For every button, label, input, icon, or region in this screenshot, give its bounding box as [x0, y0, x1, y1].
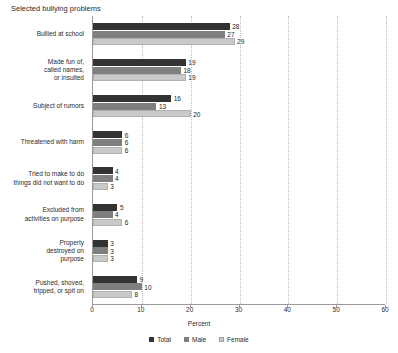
category-label-line: destroyed on — [0, 247, 84, 255]
legend-swatch-female — [219, 337, 224, 342]
bar-male — [93, 139, 122, 146]
bar-value-label: 16 — [174, 95, 181, 102]
legend-item-male: Male — [184, 336, 206, 343]
bar-total — [93, 204, 117, 211]
bar-value-label: 6 — [125, 132, 129, 139]
bar-value-label: 20 — [193, 111, 200, 118]
bar-value-label: 3 — [110, 255, 114, 262]
bar-male — [93, 31, 225, 38]
category-label-line: Bullied at school — [0, 30, 84, 38]
category-label: Subject of rumors — [0, 102, 84, 110]
bar-value-label: 19 — [188, 59, 195, 66]
category-label-line: Tried to make to do — [0, 170, 84, 178]
gridline — [337, 16, 338, 304]
bar-female — [93, 219, 122, 226]
bar-chart: Selected bullying problems 2827291918191… — [0, 0, 398, 353]
category-label-line: Property — [0, 239, 84, 247]
bar-value-label: 28 — [232, 23, 239, 30]
category-label-line: Threatened with harm — [0, 138, 84, 146]
legend-swatch-male — [184, 337, 189, 342]
category-label-line: Made fun of, — [0, 58, 84, 66]
bar-value-label: 18 — [183, 67, 190, 74]
chart-legend: TotalMaleFemale — [0, 336, 398, 343]
bar-total — [93, 167, 113, 174]
category-label-line: tripped, or spit on — [0, 287, 84, 295]
bar-female — [93, 291, 132, 298]
bar-value-label: 29 — [237, 38, 244, 45]
category-label-line: Pushed, shoved, — [0, 279, 84, 287]
bar-value-label: 3 — [110, 240, 114, 247]
gridline — [288, 16, 289, 304]
bar-female — [93, 38, 235, 45]
chart-title: Selected bullying problems — [11, 4, 101, 13]
bar-male — [93, 247, 108, 254]
category-label: Excluded fromactivities on purpose — [0, 206, 84, 222]
legend-label: Female — [227, 336, 249, 343]
bar-value-label: 3 — [110, 248, 114, 255]
legend-label: Male — [192, 336, 206, 343]
bar-total — [93, 95, 171, 102]
category-label-line: Subject of rumors — [0, 102, 84, 110]
bar-female — [93, 74, 186, 81]
bar-male — [93, 283, 142, 290]
category-label: Bullied at school — [0, 30, 84, 38]
bar-total — [93, 276, 137, 283]
category-label-line: called names, — [0, 66, 84, 74]
bar-value-label: 6 — [125, 147, 129, 154]
bar-value-label: 13 — [159, 103, 166, 110]
bar-female — [93, 255, 108, 262]
x-tick-mark — [190, 305, 191, 308]
bar-female — [93, 183, 108, 190]
bar-value-label: 6 — [125, 139, 129, 146]
plot-area: 2827291918191613206664435463339108 — [92, 16, 385, 305]
bar-value-label: 19 — [188, 74, 195, 81]
category-label-line: Excluded from — [0, 206, 84, 214]
legend-label: Total — [157, 336, 171, 343]
bar-value-label: 5 — [120, 204, 124, 211]
bar-value-label: 10 — [144, 284, 151, 291]
category-label-line: or insulted — [0, 74, 84, 82]
bar-total — [93, 59, 186, 66]
bar-total — [93, 131, 122, 138]
bar-male — [93, 211, 113, 218]
bar-value-label: 4 — [115, 168, 119, 175]
category-label-line: activities on purpose — [0, 215, 84, 223]
bar-value-label: 9 — [139, 276, 143, 283]
gridline — [240, 16, 241, 304]
bar-male — [93, 67, 181, 74]
legend-swatch-total — [149, 337, 154, 342]
bar-female — [93, 110, 191, 117]
legend-item-female: Female — [219, 336, 249, 343]
bar-total — [93, 23, 230, 30]
category-label-line: purpose — [0, 255, 84, 263]
x-tick-mark — [385, 305, 386, 308]
category-label: Propertydestroyed onpurpose — [0, 239, 84, 264]
x-tick-mark — [239, 305, 240, 308]
bar-value-label: 8 — [135, 291, 139, 298]
bar-value-label: 27 — [227, 31, 234, 38]
x-axis-label: Percent — [0, 320, 398, 327]
bar-male — [93, 175, 113, 182]
legend-item-total: Total — [149, 336, 171, 343]
bar-value-label: 6 — [125, 219, 129, 226]
x-tick-mark — [141, 305, 142, 308]
bar-value-label: 4 — [115, 211, 119, 218]
category-label: Made fun of,called names,or insulted — [0, 58, 84, 83]
bar-value-label: 3 — [110, 183, 114, 190]
gridline — [386, 16, 387, 304]
category-label: Pushed, shoved,tripped, or spit on — [0, 279, 84, 295]
bar-male — [93, 103, 156, 110]
x-tick-mark — [336, 305, 337, 308]
bar-total — [93, 240, 108, 247]
category-label: Threatened with harm — [0, 138, 84, 146]
category-label: Tried to make to dothings did not want t… — [0, 170, 84, 186]
bar-female — [93, 147, 122, 154]
x-tick-mark — [287, 305, 288, 308]
category-label-line: things did not want to do — [0, 179, 84, 187]
x-tick-mark — [92, 305, 93, 308]
bar-value-label: 4 — [115, 175, 119, 182]
